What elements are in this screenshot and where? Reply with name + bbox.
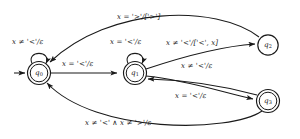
edge-label-q3-to-q1: x = '<'/ε <box>175 92 206 99</box>
state-q0[interactable]: q0 <box>28 62 51 85</box>
edge-label-self-loop-q1: x = '<'/ε <box>110 38 141 45</box>
edge-label-q3-to-q0: x ≠ '<' ∧ x ≠ '>'/ε <box>85 119 151 126</box>
state-q3[interactable]: q3 <box>257 90 280 113</box>
edge-label-self-loop-q0: x ≠ '<'/ε <box>12 38 43 45</box>
edge-q2-to-q0 <box>50 15 259 62</box>
edge-q3-to-q0 <box>47 83 262 125</box>
edge-label-q1-to-q2: x ≠ '<'/['<', x] <box>166 39 218 46</box>
edge-label-q2-to-q0: x = '>'/['>'] <box>117 13 160 20</box>
edge-label-q0-to-q1: x = '<'/ε <box>62 60 93 67</box>
state-q1[interactable]: q1 <box>124 62 147 85</box>
state-machine-diagram: q0 q1 q2 q3 x = '>'/['>'] x ≠ '<'/ε x = … <box>0 0 300 139</box>
state-q2[interactable]: q2 <box>258 35 278 55</box>
edge-label-q1-to-q3: x ≠ '<'/ε <box>181 62 212 69</box>
